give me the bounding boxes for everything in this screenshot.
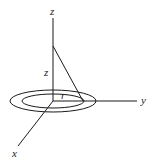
- diagram-canvas: z y x z r: [0, 0, 151, 162]
- x-axis: [18, 101, 53, 146]
- ring-field-diagram: z y x z r: [0, 0, 151, 162]
- z-axis-label: z: [49, 5, 55, 17]
- y-axis-label: y: [140, 94, 146, 106]
- x-axis-label: x: [11, 147, 17, 159]
- height-label: z: [43, 66, 49, 78]
- slant-line: [53, 46, 83, 101]
- radius-label: r: [61, 89, 66, 101]
